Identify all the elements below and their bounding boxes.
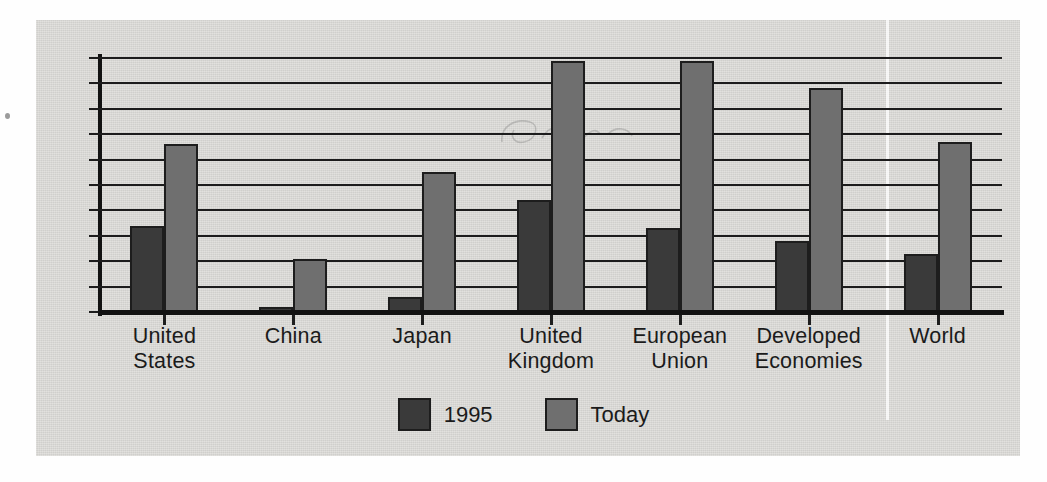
plot-area: 50454035302520151050 [100, 58, 1002, 312]
x-axis-category-label: World [858, 324, 1018, 349]
bar-today [809, 88, 843, 312]
chart-legend: 1995 Today [0, 398, 1047, 431]
legend-label-1995: 1995 [444, 402, 493, 428]
y-axis-tick [89, 209, 100, 211]
legend-item-today: Today [545, 398, 650, 431]
bar-1995 [904, 254, 938, 312]
y-axis-tick [89, 235, 100, 237]
bar-today [293, 259, 327, 312]
category-label-line: Economies [729, 349, 889, 374]
bar-today [680, 61, 714, 312]
y-axis-tick [89, 133, 100, 135]
y-axis-tick [89, 57, 100, 59]
legend-item-1995: 1995 [398, 398, 493, 431]
bar-today [164, 144, 198, 312]
y-axis-tick [89, 184, 100, 186]
y-axis-tick [89, 260, 100, 262]
bar-today [551, 61, 585, 312]
category-label-line: World [858, 324, 1018, 349]
gridline [100, 57, 1002, 59]
chart-page: 50454035302520151050 UnitedStatesChinaJa… [0, 0, 1047, 482]
bar-1995 [517, 200, 551, 312]
y-axis-tick [89, 159, 100, 161]
bar-1995 [775, 241, 809, 312]
category-label-line: States [84, 349, 244, 374]
y-axis-tick [89, 82, 100, 84]
bar-today [422, 172, 456, 312]
y-axis-tick [89, 286, 100, 288]
legend-swatch-today [545, 398, 578, 431]
legend-swatch-1995 [398, 398, 431, 431]
bar-1995 [130, 226, 164, 312]
legend-label-today: Today [591, 402, 650, 428]
grouped-bar-chart: 50454035302520151050 UnitedStatesChinaJa… [0, 0, 1047, 482]
bar-1995 [646, 228, 680, 312]
y-axis-tick [89, 108, 100, 110]
bar-today [938, 142, 972, 312]
